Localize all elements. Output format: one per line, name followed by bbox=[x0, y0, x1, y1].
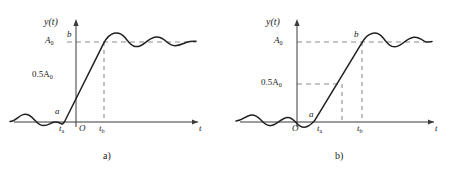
point-a-label: a bbox=[309, 110, 314, 119]
ta-tick-label: ta bbox=[59, 124, 64, 133]
y-axis-arrow-icon bbox=[294, 19, 299, 26]
half-a0-tick-label: 0.5A0 bbox=[261, 78, 282, 87]
y-axis-label: y(t) bbox=[44, 17, 58, 27]
origin-label: O bbox=[292, 124, 299, 133]
x-axis-label: t bbox=[435, 124, 438, 133]
origin-label: O bbox=[79, 124, 86, 133]
point-b-label: b bbox=[67, 30, 72, 39]
ta-tick-label: ta bbox=[317, 124, 322, 133]
x-axis-arrow-icon bbox=[428, 119, 434, 124]
tb-tick-label: tb bbox=[357, 124, 363, 133]
x-axis-arrow-icon bbox=[192, 119, 198, 124]
x-axis-label: t bbox=[199, 124, 202, 133]
panel-a-caption: a) bbox=[103, 151, 111, 161]
y-axis-arrow-icon bbox=[73, 19, 78, 26]
half-a0-tick-label: 0.5A0 bbox=[32, 70, 53, 79]
panel-b-plot bbox=[226, 0, 452, 171]
panel-b: y(t) A0 0.5A0 b a O ta tb t b) bbox=[226, 0, 452, 171]
y-axis-label: y(t) bbox=[266, 17, 280, 27]
point-a-label: a bbox=[55, 107, 60, 116]
tb-tick-label: tb bbox=[99, 124, 105, 133]
figure-container: y(t) A0 0.5A0 b a ta O tb t a) bbox=[0, 0, 452, 171]
panel-a-plot bbox=[0, 0, 226, 171]
response-curve bbox=[10, 33, 196, 126]
point-b-label: b bbox=[354, 30, 359, 39]
a0-tick-label: A0 bbox=[274, 36, 283, 45]
panel-b-caption: b) bbox=[335, 151, 343, 161]
panel-a: y(t) A0 0.5A0 b a ta O tb t a) bbox=[0, 0, 226, 171]
a0-tick-label: A0 bbox=[45, 36, 54, 45]
